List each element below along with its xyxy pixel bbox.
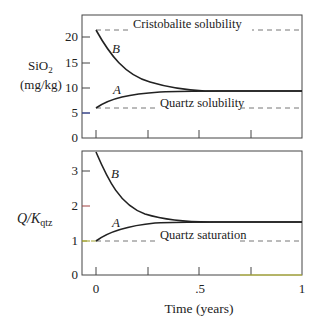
top-ylabel: SiO2	[28, 58, 53, 75]
bottom-ytick-3: 3	[72, 163, 79, 178]
bottom-ytick-2: 2	[72, 198, 79, 213]
quartz-saturation-label: Quartz saturation	[160, 228, 247, 242]
top-ytick-15: 15	[65, 55, 78, 70]
bottom-panel: 0 1 2 3 Q/Kqtz Quartz saturation B A 0 .…	[17, 151, 305, 316]
cristobalite-label: Cristobalite solubility	[133, 17, 242, 31]
top-ytick-10: 10	[65, 80, 78, 95]
top-ylabel-units: (mg/kg)	[20, 77, 62, 92]
top-label-b: B	[112, 41, 120, 56]
top-plot-frame	[82, 15, 302, 138]
bottom-label-a: A	[111, 215, 120, 230]
xtick-0-5: .5	[195, 281, 205, 296]
chart-figure: 0 5 10 15 20 SiO2 (mg/kg) Cristobalite s…	[0, 0, 322, 326]
top-x-ticks	[96, 130, 251, 138]
top-label-a: A	[112, 82, 121, 97]
x-axis-label: Time (years)	[165, 301, 234, 316]
top-ytick-5: 5	[72, 105, 79, 120]
bottom-label-b: B	[111, 166, 119, 181]
bottom-ytick-0: 0	[72, 267, 79, 282]
bottom-curve-b	[96, 152, 302, 222]
top-ytick-0: 0	[72, 130, 79, 145]
top-ytick-20: 20	[65, 29, 78, 44]
top-panel: 0 5 10 15 20 SiO2 (mg/kg) Cristobalite s…	[20, 15, 302, 145]
bottom-ylabel: Q/Kqtz	[17, 211, 53, 228]
bottom-ytick-1: 1	[72, 233, 79, 248]
xtick-0: 0	[93, 281, 100, 296]
top-y-ticks	[82, 37, 90, 113]
xtick-1: 1	[299, 281, 306, 296]
bottom-x-ticks	[96, 267, 251, 275]
top-curve-b	[96, 30, 302, 91]
quartz-solubility-label: Quartz solubility	[160, 96, 245, 110]
